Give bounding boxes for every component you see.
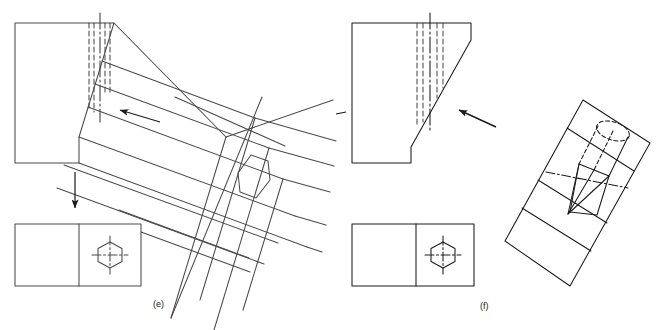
iso-e-cross-3: [269, 148, 334, 166]
iso-e-ridge-7: [119, 210, 249, 258]
front-view-e: [15, 13, 114, 163]
iso-e-rail-b: [200, 118, 255, 300]
direction-arrow-left: [120, 110, 160, 122]
iso-f-centre-axis: [546, 172, 628, 188]
iso-e-ridge-5: [64, 165, 278, 243]
iso-f-band-3: [522, 208, 591, 251]
iso-e-cross-6: [307, 247, 322, 252]
iso-e-cross-4: [283, 179, 330, 192]
iso-f-slab-outline: [505, 100, 650, 286]
iso-e-panel-right: [171, 97, 262, 318]
front-view-e-outline: [15, 23, 114, 163]
direction-arrow-upleft: [459, 110, 496, 127]
plan-view-e: [15, 224, 141, 286]
iso-e-break: [79, 137, 295, 216]
iso-f-band-1: [567, 128, 634, 171]
front-view-f: [352, 13, 471, 163]
front-view-f-outline: [352, 23, 471, 163]
iso-e-ridge-2: [95, 84, 269, 148]
iso-e-cross-5: [295, 216, 326, 225]
iso-e-rail-a: [171, 137, 226, 318]
plan-view-f: [352, 224, 474, 286]
edge-tick-left: [336, 112, 346, 114]
iso-e-rail-c: [214, 148, 269, 330]
plan-view-f-outline: [352, 224, 474, 286]
caption-f: (f): [480, 301, 489, 311]
iso-f-shaft-left: [579, 126, 598, 164]
drawing-canvas: [0, 0, 672, 330]
iso-e-cross-1: [226, 100, 333, 137]
isometric-view-f: [505, 100, 650, 286]
isometric-view-e: [57, 23, 336, 330]
iso-e-ridge-1: [102, 61, 255, 118]
technical-drawing-figure: (e) (f): [0, 0, 672, 330]
iso-e-top-edge: [114, 23, 226, 137]
caption-e: (e): [153, 299, 164, 309]
